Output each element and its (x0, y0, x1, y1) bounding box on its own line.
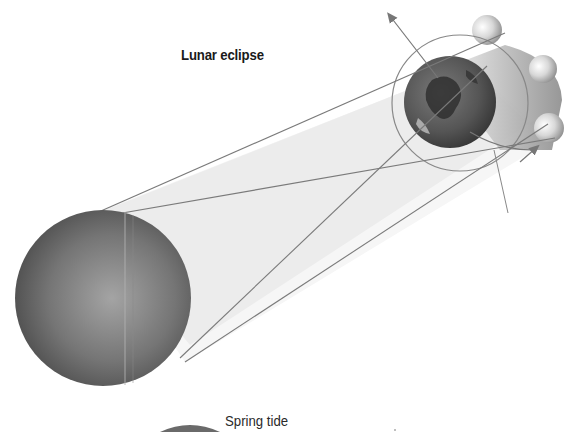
small-dot (394, 429, 396, 431)
arrow-up-left-icon (390, 16, 438, 78)
diagram-title: Lunar eclipse (181, 46, 264, 63)
sun (15, 210, 191, 386)
spring-tide-body (160, 425, 220, 432)
spring-tide-label: Spring tide (225, 412, 288, 429)
earth (404, 56, 496, 148)
moon-right (529, 55, 557, 83)
diagram-canvas (0, 0, 572, 432)
lunar-eclipse-diagram: Lunar eclipse Spring tide (0, 0, 572, 432)
